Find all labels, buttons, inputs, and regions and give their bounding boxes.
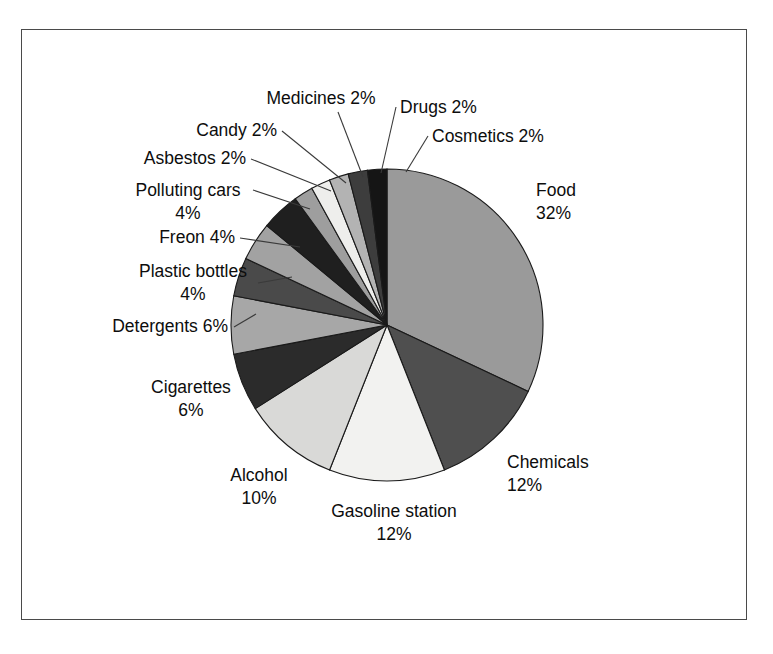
- slice-label-drugs: Drugs 2%: [400, 97, 477, 117]
- slice-label-line: 32%: [536, 203, 571, 223]
- slice-label-line: Chemicals: [507, 452, 589, 472]
- slice-label-freon: Freon 4%: [159, 227, 235, 247]
- slice-label-line: Plastic bottles: [139, 261, 247, 281]
- slice-label-gasoline-station: Gasoline station12%: [331, 501, 457, 544]
- slice-label-line: Freon 4%: [159, 227, 235, 247]
- slice-label-cosmetics: Cosmetics 2%: [432, 126, 544, 146]
- slice-label-polluting-cars: Polluting cars4%: [135, 180, 240, 223]
- slice-label-line: Asbestos 2%: [144, 148, 246, 168]
- slice-label-line: Gasoline station: [331, 501, 457, 521]
- pie-chart: Food32%Chemicals12%Gasoline station12%Al…: [0, 0, 773, 654]
- leader-line-drugs: [381, 107, 396, 173]
- slice-label-food: Food32%: [536, 180, 576, 223]
- slice-label-line: 6%: [178, 400, 203, 420]
- slice-label-line: Medicines 2%: [267, 88, 376, 108]
- slice-label-line: Cigarettes: [151, 377, 231, 397]
- slice-label-medicines: Medicines 2%: [267, 88, 376, 108]
- slice-label-asbestos: Asbestos 2%: [144, 148, 246, 168]
- slice-label-line: Food: [536, 180, 576, 200]
- slice-label-line: 4%: [175, 203, 200, 223]
- figure: Food32%Chemicals12%Gasoline station12%Al…: [0, 0, 773, 654]
- slice-label-detergents: Detergents 6%: [112, 316, 228, 336]
- slice-label-line: 4%: [180, 284, 205, 304]
- slice-label-line: 12%: [507, 475, 542, 495]
- pie-slices-group: [231, 169, 543, 481]
- slice-label-cigarettes: Cigarettes6%: [151, 377, 231, 420]
- slice-label-candy: Candy 2%: [196, 120, 277, 140]
- slice-label-line: Polluting cars: [135, 180, 240, 200]
- slice-label-line: Candy 2%: [196, 120, 277, 140]
- leader-line-asbestos: [251, 159, 331, 191]
- leader-line-medicines: [338, 112, 363, 177]
- slice-label-alcohol: Alcohol10%: [230, 465, 287, 508]
- figure-caption: [60, 640, 740, 654]
- slice-label-plastic-bottles: Plastic bottles4%: [139, 261, 247, 304]
- slice-label-line: Drugs 2%: [400, 97, 477, 117]
- leader-line-cosmetics: [406, 136, 428, 172]
- slice-label-chemicals: Chemicals12%: [507, 452, 589, 495]
- slice-label-line: Detergents 6%: [112, 316, 228, 336]
- slice-label-line: 12%: [376, 524, 411, 544]
- slice-label-line: Cosmetics 2%: [432, 126, 544, 146]
- slice-label-line: Alcohol: [230, 465, 287, 485]
- slice-label-line: 10%: [241, 488, 276, 508]
